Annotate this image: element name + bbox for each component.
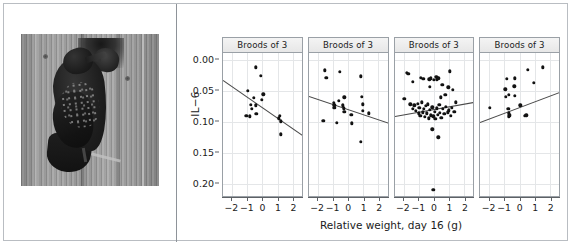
panel-plot-area xyxy=(222,52,303,197)
data-point xyxy=(323,69,326,72)
x-tick-mark xyxy=(262,197,263,201)
gridline-vertical xyxy=(333,53,334,196)
data-point xyxy=(437,136,440,139)
gridline-horizontal xyxy=(395,153,474,154)
gridline-horizontal xyxy=(395,122,474,123)
data-point xyxy=(337,99,340,102)
x-axis-label: Relative weight, day 16 (g) xyxy=(222,219,560,231)
x-tick-label: 0 xyxy=(259,202,265,213)
x-tick-mark xyxy=(489,197,490,201)
y-tick-label: 0.10 xyxy=(193,115,214,126)
figure-container: IL−6 0.000.050.100.150.20 Broods of 3Bro… xyxy=(3,3,568,241)
x-tick-mark xyxy=(520,197,521,201)
data-point xyxy=(343,110,346,113)
x-tick-mark xyxy=(379,197,380,201)
panel-strip-label: Broods of 3 xyxy=(308,37,389,52)
x-tick-label: 1 xyxy=(275,202,281,213)
gridline-vertical xyxy=(419,53,420,196)
data-point xyxy=(412,104,415,107)
gridline-horizontal xyxy=(309,91,388,92)
y-tick-label: 0.05 xyxy=(193,85,214,96)
starling-photograph xyxy=(21,34,159,186)
gridline-horizontal xyxy=(309,122,388,123)
x-tick-mark xyxy=(449,197,450,201)
data-point xyxy=(338,70,341,73)
gridline-vertical xyxy=(449,53,450,196)
data-point xyxy=(525,114,528,117)
x-tick-label: 2 xyxy=(548,202,554,213)
y-tick-mark xyxy=(215,151,219,152)
gridline-horizontal xyxy=(309,153,388,154)
data-point xyxy=(349,113,352,116)
x-tick-label: 2 xyxy=(462,202,468,213)
x-axis-cell: −2−1012 xyxy=(394,197,475,221)
data-point xyxy=(453,110,456,113)
gridline-vertical xyxy=(348,53,349,196)
x-tick-label: −2 xyxy=(396,202,410,213)
x-tick-mark xyxy=(348,197,349,201)
x-tick-mark xyxy=(364,197,365,201)
data-point xyxy=(418,106,421,109)
data-point xyxy=(449,114,452,117)
data-point xyxy=(441,83,444,86)
gridline-horizontal xyxy=(480,91,559,92)
panel-plot-area xyxy=(308,52,389,197)
gridline-vertical xyxy=(378,53,379,196)
x-tick-label: −1 xyxy=(240,202,254,213)
x-tick-mark xyxy=(403,197,404,201)
gridline-vertical xyxy=(550,53,551,196)
x-tick-label: 0 xyxy=(517,202,523,213)
gridline-vertical xyxy=(464,53,465,196)
data-point xyxy=(350,122,353,125)
x-tick-mark xyxy=(504,197,505,201)
data-point xyxy=(438,111,441,114)
gridline-horizontal xyxy=(480,60,559,61)
photo-wood-background xyxy=(21,34,159,186)
x-tick-mark xyxy=(434,197,435,201)
data-point xyxy=(435,107,438,110)
board-seam xyxy=(35,34,37,186)
gridline-horizontal xyxy=(309,60,388,61)
scatter-chart-panel: IL−6 0.000.050.100.150.20 Broods of 3Bro… xyxy=(177,4,569,242)
x-tick-label: 0 xyxy=(431,202,437,213)
x-tick-mark xyxy=(293,197,294,201)
data-point xyxy=(278,114,281,117)
gridline-vertical xyxy=(489,53,490,196)
x-tick-mark xyxy=(465,197,466,201)
data-point xyxy=(335,121,338,124)
gridline-vertical xyxy=(278,53,279,196)
data-point xyxy=(406,72,409,75)
data-point xyxy=(427,117,430,120)
gridline-horizontal xyxy=(480,153,559,154)
gridline-vertical xyxy=(504,53,505,196)
x-tick-label: −1 xyxy=(497,202,511,213)
data-point xyxy=(422,77,425,80)
data-point xyxy=(254,104,257,107)
panel-strip-label: Broods of 3 xyxy=(394,37,475,52)
panel-plot-area xyxy=(479,52,560,197)
data-point xyxy=(426,102,429,105)
data-point xyxy=(359,75,362,78)
data-point xyxy=(255,112,258,115)
data-point xyxy=(441,107,444,110)
y-tick-mark xyxy=(215,90,219,91)
x-axis-cell: −2−1012 xyxy=(479,197,560,221)
gridline-horizontal xyxy=(480,184,559,185)
x-tick-mark xyxy=(247,197,248,201)
x-axis-row: −2−1012−2−1012−2−1012−2−1012 xyxy=(222,197,560,221)
scatter-panel-2: Broods of 3 xyxy=(308,37,389,197)
data-point xyxy=(411,80,414,83)
x-tick-mark xyxy=(278,197,279,201)
x-tick-label: 1 xyxy=(361,202,367,213)
y-tick-label: 0.00 xyxy=(193,54,214,65)
gridline-horizontal xyxy=(223,60,302,61)
gridline-vertical xyxy=(404,53,405,196)
x-tick-mark xyxy=(231,197,232,201)
data-point xyxy=(513,85,516,88)
gridline-horizontal xyxy=(223,153,302,154)
x-tick-label: −2 xyxy=(310,202,324,213)
data-point xyxy=(279,133,282,136)
scatter-panel-1: Broods of 3 xyxy=(222,37,303,197)
gridline-horizontal xyxy=(480,122,559,123)
data-point xyxy=(249,103,252,106)
